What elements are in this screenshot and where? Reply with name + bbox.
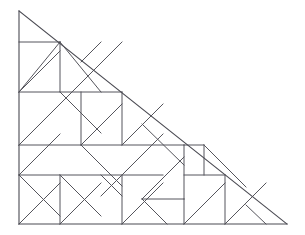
figure-canvas [0,0,305,235]
triangle-dissection-drawing [0,0,305,235]
